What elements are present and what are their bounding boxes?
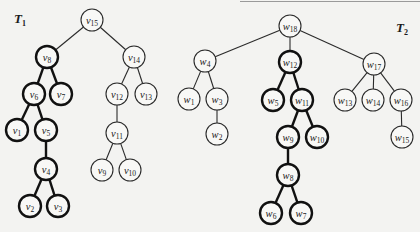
edge-v6-v5: [37, 104, 42, 119]
node-w1: w1: [178, 88, 200, 110]
edge-v15-v8: [55, 27, 83, 50]
node-w11: w11: [291, 89, 313, 111]
node-w16: w16: [390, 89, 412, 111]
edge-w12-w11: [293, 72, 298, 89]
edge-v11-v9: [106, 143, 113, 160]
node-w7: w7: [290, 202, 312, 224]
node-v3: v3: [47, 195, 69, 217]
edge-w11-w10: [306, 110, 313, 127]
edge-v4-v3: [49, 179, 54, 195]
edge-w4-w1: [193, 71, 200, 89]
tree-canvas: v15v8v14v6v7v12v13v1v5v11v4v9v10v2v3w18w…: [0, 0, 420, 232]
edge-v11-v10: [121, 143, 127, 159]
node-v13: v13: [135, 83, 157, 105]
edge-w18-w4: [215, 30, 280, 57]
tree-label-t1: T1: [14, 11, 26, 28]
node-w14: w14: [362, 89, 384, 111]
edge-v8-v6: [38, 67, 44, 83]
node-v11: v11: [106, 122, 128, 144]
node-w5: w5: [262, 89, 284, 111]
node-w6: w6: [260, 202, 282, 224]
node-w17: w17: [363, 53, 385, 75]
tree-t2: w18w4w12w17w1w3w5w11w13w14w16w2w9w10w15w…: [178, 15, 413, 224]
node-v5: v5: [35, 119, 57, 141]
node-v6: v6: [23, 83, 45, 105]
edge-w17-w13: [352, 73, 367, 92]
node-w4: w4: [194, 50, 216, 72]
edge-v14-v12: [122, 67, 130, 84]
edge-v15-v14: [100, 27, 125, 49]
edge-w8-w7: [292, 185, 298, 202]
node-v10: v10: [119, 159, 141, 181]
edge-w11-w9: [292, 110, 298, 126]
tree-t1: v15v8v14v6v7v12v13v1v5v11v4v9v10v2v3: [6, 9, 157, 217]
edge-v14-v13: [137, 67, 142, 83]
node-w10: w10: [306, 126, 328, 148]
tree-label-t2: T2: [396, 20, 408, 37]
node-w8: w8: [277, 164, 299, 186]
node-v12: v12: [106, 83, 128, 105]
edge-v8-v7: [51, 67, 57, 83]
node-v8: v8: [36, 46, 58, 68]
edge-w12-w5: [277, 72, 285, 90]
edge-v6-v1: [22, 104, 30, 120]
edge-w8-w6: [275, 185, 283, 203]
node-w15: w15: [391, 126, 413, 148]
node-v9: v9: [91, 159, 113, 181]
edge-w17-w16: [381, 73, 395, 91]
node-v4: v4: [35, 158, 57, 180]
edge-w18-w17: [300, 31, 364, 60]
tree-diagram: v15v8v14v6v7v12v13v1v5v11v4v9v10v2v3w18w…: [0, 0, 420, 232]
node-v1: v1: [6, 119, 28, 141]
node-v7: v7: [50, 83, 72, 105]
node-w2: w2: [206, 123, 228, 145]
node-v2: v2: [19, 195, 41, 217]
edge-v4-v2: [34, 179, 41, 196]
node-v14: v14: [123, 46, 145, 68]
node-w9: w9: [277, 126, 299, 148]
edge-w4-w3: [208, 71, 213, 88]
node-w12: w12: [279, 51, 301, 73]
node-w18: w18: [279, 15, 301, 37]
node-w3: w3: [206, 88, 228, 110]
node-v15: v15: [81, 9, 103, 31]
node-w13: w13: [334, 89, 356, 111]
